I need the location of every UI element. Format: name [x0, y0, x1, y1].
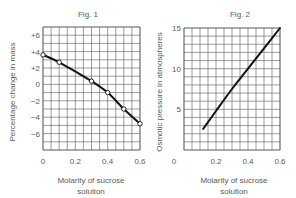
fig1-chart: Fig. 1 +6+4+20−2−4−6 00.20.40.6 Percenta… [8, 10, 146, 196]
y-tick-label: 15 [172, 24, 181, 33]
y-tick-label: 10 [172, 65, 181, 74]
data-point-marker [41, 53, 45, 57]
x-tick-label: 0.4 [242, 157, 254, 166]
data-point-marker [122, 107, 126, 111]
data-point-marker [138, 122, 142, 126]
y-tick-label: 0 [36, 80, 41, 89]
fig1-x-axis-label-line2: solution [77, 187, 105, 196]
y-tick-label: +2 [31, 64, 41, 73]
x-tick-label: 0 [41, 157, 46, 166]
data-point-marker [105, 90, 109, 94]
y-tick-label: −2 [31, 97, 41, 106]
y-tick-label: +6 [31, 31, 41, 40]
x-tick-label: 0.6 [134, 157, 146, 166]
y-tick-label: 5 [177, 105, 182, 114]
y-tick-label: −6 [31, 130, 41, 139]
x-tick-label: 0.4 [102, 157, 114, 166]
figure-canvas: Fig. 1 +6+4+20−2−4−6 00.20.40.6 Percenta… [0, 0, 296, 198]
x-tick-label: 0.6 [274, 157, 286, 166]
fig1-y-axis-label: Percentage change in mass [8, 42, 17, 141]
x-tick-label: 0 [172, 157, 177, 166]
y-tick-label: +4 [31, 48, 41, 57]
fig1-grid [43, 27, 140, 150]
data-point-marker [57, 60, 61, 64]
fig1-x-axis-label-line1: Molarity of sucrose [57, 176, 125, 185]
fig1-title: Fig. 1 [78, 10, 99, 19]
fig2-y-tick-labels: 15105 [172, 24, 181, 114]
fig2-x-axis-label-line2: solution [220, 187, 248, 196]
fig2-title: Fig. 2 [230, 10, 251, 19]
x-tick-label: 0.2 [210, 157, 222, 166]
fig1-y-tick-labels: +6+4+20−2−4−6 [31, 31, 41, 138]
fig2-data-series [203, 28, 280, 129]
y-tick-label: −4 [31, 113, 41, 122]
fig2-chart: Fig. 2 15105 00.20.40.6 Osmotic pressure… [155, 10, 286, 196]
x-tick-label: 0.2 [70, 157, 82, 166]
fig2-x-tick-labels: 00.20.40.6 [172, 157, 286, 166]
data-point-marker [89, 79, 93, 83]
data-line [203, 28, 280, 129]
fig2-x-axis-label-line1: Molarity of sucrose [200, 176, 268, 185]
fig1-x-tick-labels: 00.20.40.6 [41, 157, 146, 166]
fig2-y-axis-label: Osmotic pressure in atmospheres [155, 32, 164, 152]
